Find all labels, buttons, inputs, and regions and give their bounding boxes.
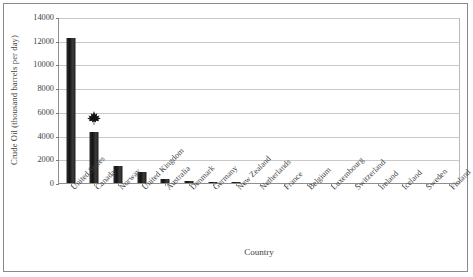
y-axis-tick-label: 10000 [22,61,54,69]
bar-slot [390,18,414,183]
y-axis-tickmark [56,184,59,185]
bar[interactable] [66,38,75,183]
y-axis-title-text: Crude Oil (thousand barrels per day) [9,35,19,165]
y-axis-tick-label: 6000 [22,109,54,117]
bar-slot [414,18,438,183]
bar-slot [295,18,319,183]
y-axis-tick-label: 8000 [22,85,54,93]
bar-slot [437,18,461,183]
bar-slot [130,18,154,183]
x-axis-title: Country [58,247,460,257]
chart-frame: Crude Oil (thousand barrels per day) 020… [3,3,468,272]
bar-slot [201,18,225,183]
bar-slot [106,18,130,183]
bar-slot [59,18,83,183]
y-axis-tick-label: 2000 [22,156,54,164]
bar-slot [225,18,249,183]
y-axis-tick-labels: 02000400060008000100001200014000 [22,18,54,184]
bar-slot [319,18,343,183]
y-axis-tick-label: 0 [22,180,54,188]
y-axis-tick-label: 12000 [22,38,54,46]
bar-slot [366,18,390,183]
y-axis-title: Crude Oil (thousand barrels per day) [6,4,22,196]
y-axis-tick-label: 14000 [22,14,54,22]
y-axis-tick-label: 4000 [22,132,54,140]
maple-leaf-icon [87,110,102,125]
plot-area [58,18,460,184]
bar-slot [177,18,201,183]
x-axis-tick-labels: United StatesCanadaNorwayUnited KingdomA… [58,186,460,244]
bars-layer [59,18,459,183]
